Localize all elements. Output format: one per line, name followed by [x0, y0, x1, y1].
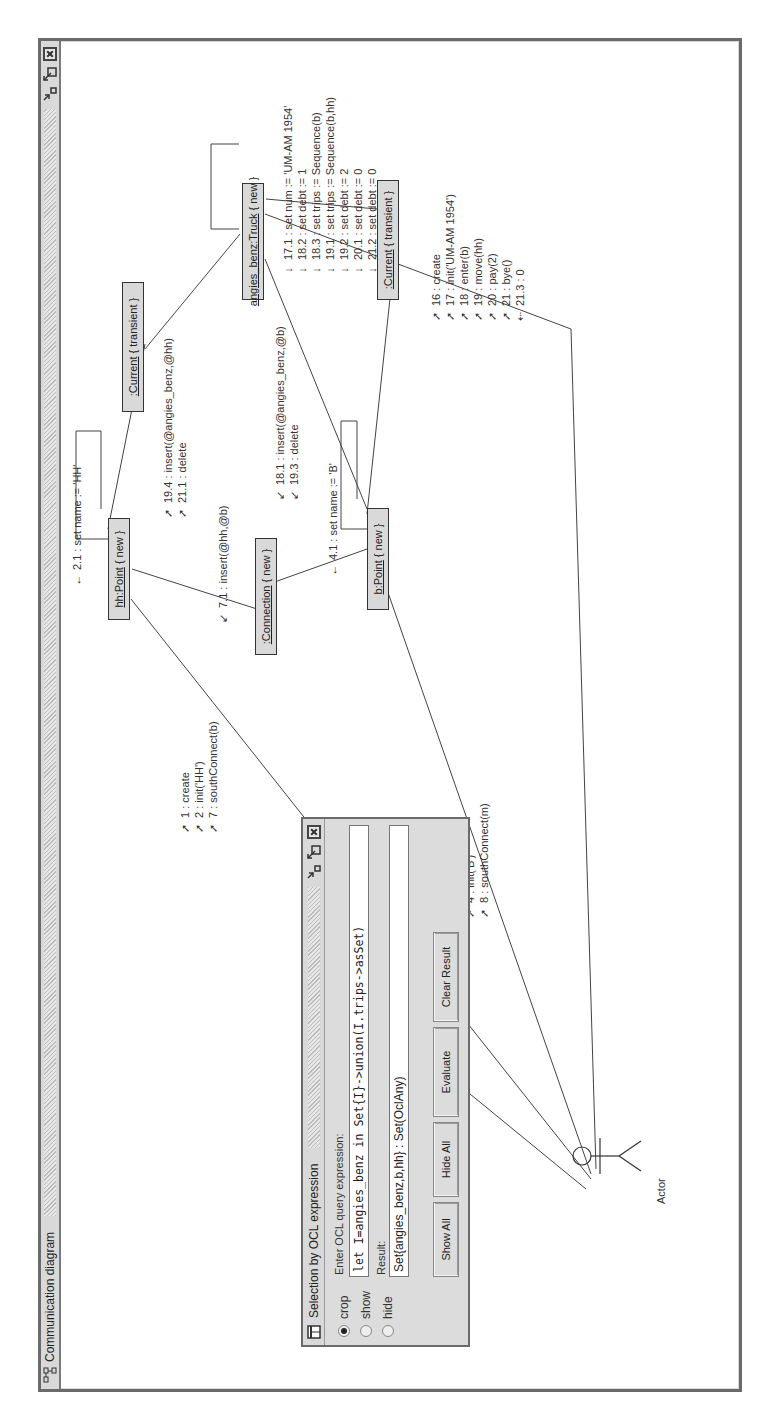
dialog-window-icon — [307, 1323, 321, 1339]
dialog-drag-area[interactable] — [308, 887, 320, 1148]
arrow-icon: ↓ — [337, 264, 351, 276]
arrow-icon: ➚ — [443, 310, 457, 322]
arrow-icon: ↙ — [273, 489, 287, 501]
messages-hh-self: ←2.1 : set name := 'HH' — [70, 465, 84, 586]
show-all-button[interactable]: Show All — [433, 1202, 459, 1277]
arrow-icon: ➚ — [192, 822, 206, 834]
arrow-icon: ➚ — [471, 310, 485, 322]
arrow-icon: ➚ — [178, 822, 192, 834]
messages-truck-self: ↓17.1 : set num := 'UM-AM 1954' ↓18.2 : … — [281, 97, 379, 276]
dialog-close-icon[interactable] — [307, 825, 321, 839]
minimize-icon[interactable] — [43, 87, 57, 101]
messages-b-current: ↙18.1 : insert(@angies_benz,@b) ↙19.3 : … — [273, 326, 301, 501]
window-title: Communication diagram — [43, 1232, 57, 1362]
arrow-icon: ➚ — [206, 822, 220, 834]
dialog-maximize-icon[interactable] — [307, 845, 321, 859]
messages-b-self: ←4.1 : set name := 'B' — [326, 463, 340, 576]
arrow-icon: ↓ — [295, 264, 309, 276]
object-angies-benz-truck[interactable]: angies_benz:Truck { new } — [242, 183, 264, 300]
window-titlebar[interactable]: Communication diagram — [41, 41, 61, 1389]
arrow-icon: ↓ — [365, 264, 379, 276]
dialog-titlebar[interactable]: Selection by OCL expression — [303, 819, 325, 1345]
result-label: Result: — [375, 1241, 387, 1275]
messages-hh-connection: ↙7.1 : insert(@hh,@b) — [216, 506, 230, 624]
arrow-icon: ↓ — [351, 264, 365, 276]
radio-crop[interactable]: crop — [333, 1277, 355, 1337]
arrow-icon: ➚ — [477, 907, 491, 919]
object-hh-point[interactable]: hh:Point { new } — [108, 518, 130, 620]
arrow-icon: ↓ — [323, 264, 337, 276]
radio-hide[interactable]: hide — [377, 1277, 399, 1337]
return-arrow-icon: ⇠ — [513, 310, 527, 322]
query-label: Enter OCL query expression: — [333, 1134, 345, 1275]
actor-label: Actor — [655, 1178, 667, 1204]
result-field: Set{angies_benz,b,hh} : Set(OclAny) — [389, 825, 409, 1277]
messages-hh-current: ➚19.4 : insert(@angies_benz,@hh) ➚21.1 :… — [161, 338, 189, 519]
evaluate-button[interactable]: Evaluate — [433, 1027, 459, 1117]
arrow-icon: ↓ — [281, 264, 295, 276]
arrow-icon: ➚ — [485, 310, 499, 322]
radio-button[interactable] — [382, 1325, 394, 1337]
arrow-icon: ➚ — [175, 507, 189, 519]
clear-result-button[interactable]: Clear Result — [433, 932, 459, 1022]
object-current-bottom[interactable]: :Current { transient } — [377, 180, 399, 300]
radio-button[interactable] — [338, 1325, 350, 1337]
arrow-icon: ↙ — [287, 489, 301, 501]
arrow-icon: ➚ — [457, 310, 471, 322]
maximize-icon[interactable] — [43, 67, 57, 81]
dialog-minimize-icon[interactable] — [307, 865, 321, 879]
diagram-icon — [43, 1367, 57, 1383]
arrow-icon: ➚ — [161, 507, 175, 519]
messages-actor-hh: ➚1 : create ➚2 : init('HH') ➚7 : southCo… — [178, 721, 220, 834]
arrow-icon: ➚ — [499, 310, 513, 322]
close-icon[interactable] — [43, 47, 57, 61]
object-b-point[interactable]: b:Point { new } — [367, 508, 389, 610]
rotated-stage: Communication diagram — [0, 0, 775, 1416]
arrow-icon: ← — [326, 564, 340, 576]
object-current-top[interactable]: :Current { transient } — [122, 282, 144, 412]
communication-diagram-window: Communication diagram — [38, 38, 742, 1392]
hide-all-button[interactable]: Hide All — [433, 1122, 459, 1197]
dialog-body: crop show hide Enter OCL query expressio… — [325, 819, 468, 1345]
messages-actor-truck: ➚16 : create ➚17 : init('UM-AM 1954') ➚1… — [429, 194, 527, 322]
ocl-selection-dialog: Selection by OCL expression crop — [301, 817, 470, 1347]
ocl-query-input[interactable]: let I=angies_benz in Set{I}->union(I.tri… — [349, 825, 369, 1277]
diagram-canvas[interactable]: hh:Point { new } :Connection { new } b:P… — [61, 41, 739, 1389]
arrow-icon: ← — [70, 574, 84, 586]
arrow-icon: ↙ — [216, 612, 230, 624]
arrow-icon: ↓ — [309, 264, 323, 276]
arrow-icon: ➚ — [429, 310, 443, 322]
object-connection[interactable]: :Connection { new } — [255, 538, 277, 655]
titlebar-drag-area[interactable] — [44, 109, 56, 1216]
dialog-title: Selection by OCL expression — [307, 1164, 321, 1318]
radio-show[interactable]: show — [355, 1277, 377, 1337]
radio-button[interactable] — [360, 1325, 372, 1337]
mode-radio-group: crop show hide — [333, 1277, 399, 1337]
